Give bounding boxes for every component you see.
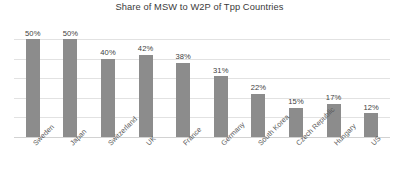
category-tick: Sweden <box>14 139 52 195</box>
bar-slot: 31% <box>202 39 240 137</box>
bar-value-label: 31% <box>213 66 229 75</box>
category-tick: UK <box>127 139 165 195</box>
bar-value-label: 50% <box>63 29 79 38</box>
chart-title: Share of MSW to W2P of Tpp Countries <box>0 2 399 12</box>
category-tick: South Korea <box>240 139 278 195</box>
category-tick: Czech Republic <box>277 139 315 195</box>
category-tick: Japan <box>52 139 90 195</box>
bars-layer: 50%50%40%42%38%31%22%15%17%12% <box>14 39 390 137</box>
bar[interactable] <box>26 39 40 137</box>
category-tick: Germany <box>202 139 240 195</box>
bar[interactable] <box>176 63 190 137</box>
category-axis: SwedenJapanSwitzerlandUKFranceGermanySou… <box>14 139 390 195</box>
bar-value-label: 22% <box>251 83 267 92</box>
bar[interactable] <box>63 39 77 137</box>
bar-value-label: 42% <box>138 44 154 53</box>
category-tick: Hungary <box>315 139 353 195</box>
category-tick: US <box>352 139 390 195</box>
bar-slot: 38% <box>164 39 202 137</box>
bar[interactable] <box>101 59 115 137</box>
bar-value-label: 40% <box>100 48 116 57</box>
bar-value-label: 38% <box>175 52 191 61</box>
bar-slot: 50% <box>52 39 90 137</box>
bar-slot: 12% <box>352 39 390 137</box>
bar-value-label: 15% <box>288 97 304 106</box>
bar[interactable] <box>251 94 265 137</box>
category-tick: Switzerland <box>89 139 127 195</box>
bar-chart: Share of MSW to W2P of Tpp Countries 50%… <box>0 0 399 195</box>
bar-value-label: 50% <box>25 29 41 38</box>
bar[interactable] <box>214 76 228 137</box>
bar-slot: 50% <box>14 39 52 137</box>
bar-slot: 40% <box>89 39 127 137</box>
bar-slot: 22% <box>240 39 278 137</box>
bar-value-label: 17% <box>326 93 342 102</box>
bar[interactable] <box>139 55 153 137</box>
category-tick: France <box>164 139 202 195</box>
bar-value-label: 12% <box>363 103 379 112</box>
